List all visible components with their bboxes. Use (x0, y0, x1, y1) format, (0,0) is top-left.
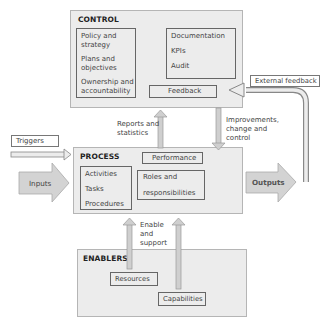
support-line: support (140, 239, 167, 247)
external-feedback-arrowhead (229, 83, 244, 97)
triggers-arrowhead (64, 149, 71, 160)
enable-support-label: Enable and support (140, 221, 167, 248)
reports-arrowhead (154, 110, 167, 117)
reports-line: Reports and (117, 120, 159, 128)
reports-statistics-label: Reports and statistics (117, 120, 159, 138)
capabilities-enable-arrow-shaft (176, 224, 181, 289)
flow-arrows (0, 0, 328, 324)
improvements-label: Improvements, change and control (226, 116, 279, 143)
statistics-line: statistics (117, 129, 148, 137)
control-line: control (226, 134, 250, 142)
resources-enable-arrow-shaft (127, 224, 132, 269)
and-line: and (140, 230, 153, 238)
improvements-arrowhead (212, 143, 225, 150)
triggers-arrow-shaft (11, 152, 65, 157)
enable-line: Enable (140, 221, 164, 229)
resources-enable-arrowhead (123, 218, 136, 225)
improvements-arrow-shaft (216, 108, 221, 144)
capabilities-enable-arrowhead (172, 218, 185, 225)
improvements-line: Improvements, (226, 116, 279, 124)
outputs-label: Outputs (252, 178, 285, 187)
change-and-line: change and (226, 125, 267, 133)
inputs-label: Inputs (29, 179, 51, 188)
